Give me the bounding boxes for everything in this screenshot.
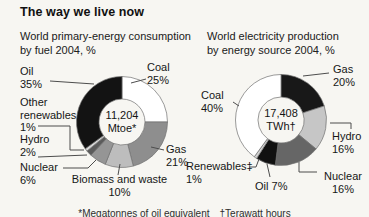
segment-label-coal-right: Coal 40% [201, 89, 224, 114]
segment-name-hydro-right: Hydro [332, 130, 361, 142]
segment-pct-other-renewables: 1% [20, 121, 96, 134]
segment-name-coal-right: Coal [201, 89, 224, 101]
segment-pct-biomass: 10% [62, 186, 177, 199]
segment-name-other-renewables: Other renewables [20, 96, 76, 121]
segment-name-coal: Coal [147, 61, 170, 73]
segment-pct-hydro-right: 16% [332, 143, 361, 156]
segment-label-hydro-right: Hydro 16% [332, 130, 361, 155]
chart-footnote: *Megatonnes of oil equivalent †Terawatt … [0, 208, 369, 217]
segment-pct-coal-right: 40% [201, 102, 224, 115]
left-center-value: 11,204 [106, 109, 139, 121]
chart-panel: The way we live now World primary-energy… [0, 0, 369, 217]
segment-pct-gas: 21% [166, 156, 188, 169]
segment-name-biomass: Biomass and waste [72, 173, 167, 185]
left-center-unit: Mtoe* [108, 122, 137, 134]
segment-label-coal: Coal 25% [147, 61, 170, 86]
segment-label-other-renewables: Other renewables 1% [20, 96, 96, 134]
segment-pct-renewables-right: 1% [186, 173, 253, 186]
leader-line-nuclear [63, 160, 96, 168]
segment-pct-coal: 25% [147, 74, 170, 87]
segment-name-gas: Gas [166, 143, 186, 155]
left-donut-center-label: 11,204 Mtoe* [87, 109, 157, 135]
segment-pct-hydro: 2% [20, 146, 49, 159]
right-center-value: 17,408 [264, 107, 298, 119]
segment-label-oil-right: Oil 7% [255, 180, 287, 193]
leader-line-oil-right [267, 164, 270, 177]
leader-line-oil [50, 81, 94, 84]
leader-line-nuclear-right [299, 162, 317, 172]
segment-label-oil: Oil 35% [20, 65, 42, 90]
segment-pct-oil-right: 7% [272, 180, 288, 192]
segment-name-nuclear: Nuclear [20, 161, 58, 173]
segment-pct-nuclear-right: 16% [318, 183, 368, 196]
right-donut-center-label: 17,408 TWh† [246, 107, 316, 133]
segment-name-gas-right: Gas [333, 63, 353, 75]
segment-name-renewables-right: Renewables‡ [186, 160, 253, 172]
leader-line-hydro-right [330, 123, 351, 129]
leader-line-gas-right [303, 73, 329, 76]
segment-label-gas-right: Gas 20% [333, 63, 355, 88]
segment-label-nuclear: Nuclear 6% [20, 161, 58, 186]
segment-label-hydro: Hydro 2% [20, 133, 49, 158]
segment-label-renewables-right: Renewables‡ 1% [186, 160, 253, 185]
segment-name-hydro: Hydro [20, 133, 49, 145]
segment-label-nuclear-right: Nuclear 16% [318, 170, 368, 195]
segment-pct-nuclear: 6% [20, 174, 58, 187]
segment-name-oil: Oil [20, 65, 33, 77]
segment-pct-gas-right: 20% [333, 76, 355, 89]
segment-label-gas: Gas 21% [166, 143, 188, 168]
segment-pct-oil: 35% [20, 78, 42, 91]
segment-name-nuclear-right: Nuclear [324, 170, 362, 182]
segment-label-biomass: Biomass and waste 10% [62, 173, 177, 198]
right-center-unit: TWh† [266, 120, 295, 132]
segment-name-oil-right: Oil [255, 180, 268, 192]
